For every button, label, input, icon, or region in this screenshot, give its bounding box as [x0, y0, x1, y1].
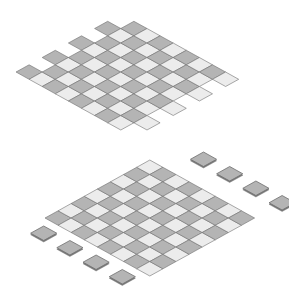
loose-tile: [243, 181, 269, 196]
diagram-canvas: [0, 0, 289, 289]
loose-tile: [190, 152, 216, 167]
loose-tile: [109, 270, 135, 285]
loose-tile: [31, 226, 57, 241]
top-checkerboard: [16, 21, 239, 130]
loose-tile: [269, 196, 289, 211]
loose-tile: [217, 167, 243, 182]
loose-tile: [57, 241, 83, 256]
loose-tile: [83, 255, 109, 270]
